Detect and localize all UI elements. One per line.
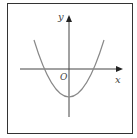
origin-label: O <box>60 72 68 82</box>
x-axis-label: x <box>115 74 121 85</box>
y-axis-arrow-icon <box>66 15 72 22</box>
x-axis-arrow-icon <box>116 66 123 72</box>
y-axis-label: y <box>57 11 64 22</box>
parabola-diagram: y O x <box>0 0 137 138</box>
